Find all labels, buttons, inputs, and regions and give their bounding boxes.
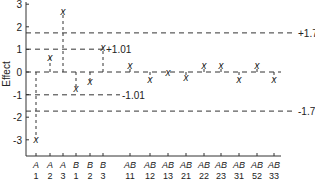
x-tick-label-level: 33 bbox=[269, 171, 279, 181]
reference-line-label: +1.73 bbox=[298, 28, 315, 39]
x-tick-label-level: 21 bbox=[181, 171, 191, 181]
data-point-marker: x bbox=[183, 72, 190, 83]
y-tick-label: -1 bbox=[13, 90, 22, 101]
reference-line-label: -1.73 bbox=[298, 106, 315, 117]
x-tick-label-factor: B bbox=[100, 160, 106, 170]
data-point-marker: x bbox=[147, 74, 154, 85]
y-axis-label: Effect bbox=[1, 61, 12, 87]
effect-chart: 3210-1-2-3Effect+1.73+1.01-1.01-1.73xA1x… bbox=[0, 0, 315, 186]
data-point-marker: x bbox=[87, 76, 94, 87]
x-tick-label-factor: AB bbox=[179, 160, 192, 170]
x-tick-label-factor: AB bbox=[123, 160, 136, 170]
x-tick-label-factor: AB bbox=[250, 160, 263, 170]
x-tick-label-level: 52 bbox=[252, 171, 262, 181]
x-tick-label-factor: AB bbox=[197, 160, 210, 170]
x-tick-label-level: 2 bbox=[47, 171, 52, 181]
data-point-marker: x bbox=[201, 60, 208, 71]
x-tick-label-level: 12 bbox=[145, 171, 155, 181]
data-point-marker: x bbox=[236, 74, 243, 85]
data-point-marker: x bbox=[165, 67, 172, 78]
data-point-marker: x bbox=[60, 6, 67, 17]
x-tick-label-factor: AB bbox=[267, 160, 280, 170]
x-tick-label-factor: B bbox=[87, 160, 93, 170]
y-tick-label: 2 bbox=[16, 22, 22, 33]
x-tick-label-level: 22 bbox=[199, 171, 209, 181]
x-tick-label-level: 11 bbox=[125, 171, 134, 181]
x-tick-label-level: 3 bbox=[60, 171, 65, 181]
y-tick-label: 0 bbox=[16, 67, 22, 78]
data-point-marker: x bbox=[33, 134, 40, 145]
x-tick-label-factor: A bbox=[59, 160, 66, 170]
x-tick-label-factor: AB bbox=[214, 160, 227, 170]
data-point-marker: x bbox=[218, 60, 225, 71]
y-tick-label: 3 bbox=[16, 0, 22, 10]
reference-line-label: +1.01 bbox=[106, 44, 132, 55]
x-tick-label-factor: B bbox=[73, 160, 79, 170]
x-tick-label-factor: AB bbox=[232, 160, 245, 170]
data-point-marker: x bbox=[127, 60, 134, 71]
reference-line-label: -1.01 bbox=[122, 90, 145, 101]
x-tick-label-factor: AB bbox=[143, 160, 156, 170]
data-point-marker: x bbox=[271, 74, 278, 85]
data-point-marker: x bbox=[73, 83, 80, 94]
data-point-marker: x bbox=[47, 52, 54, 63]
y-tick-label: -2 bbox=[13, 112, 22, 123]
data-point-marker: x bbox=[254, 60, 261, 71]
x-tick-label-level: 13 bbox=[163, 171, 173, 181]
y-tick-label: -3 bbox=[13, 135, 22, 146]
x-tick-label-level: 2 bbox=[87, 171, 92, 181]
x-tick-label-factor: A bbox=[46, 160, 53, 170]
y-tick-label: 1 bbox=[16, 44, 22, 55]
x-tick-label-level: 1 bbox=[73, 171, 78, 181]
x-tick-label-level: 3 bbox=[100, 171, 105, 181]
data-point-marker: x bbox=[100, 42, 107, 53]
x-tick-label-level: 1 bbox=[33, 171, 38, 181]
x-tick-label-level: 23 bbox=[216, 171, 226, 181]
x-tick-label-factor: AB bbox=[161, 160, 174, 170]
x-tick-label-level: 31 bbox=[234, 171, 244, 181]
x-tick-label-factor: A bbox=[32, 160, 39, 170]
